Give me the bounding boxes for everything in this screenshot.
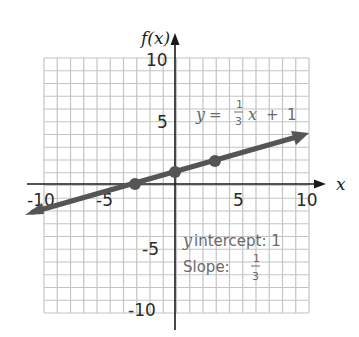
svg-text:y: y bbox=[182, 231, 193, 250]
svg-text:y: y bbox=[195, 105, 206, 124]
svg-text:intercept: 1: intercept: 1 bbox=[194, 232, 281, 250]
svg-text:1: 1 bbox=[253, 252, 260, 265]
data-point bbox=[129, 178, 141, 190]
svg-text:x: x bbox=[248, 105, 257, 124]
svg-text:=: = bbox=[209, 106, 222, 124]
svg-text:1: 1 bbox=[287, 106, 297, 124]
y-axis-arrow-icon bbox=[171, 33, 180, 45]
y-tick-label: 5 bbox=[157, 112, 168, 132]
chart: x f(x) -10 -5 5 10 10 5 -5 -10 y = 1 3 x… bbox=[0, 0, 359, 337]
x-axis-label: x bbox=[336, 174, 346, 194]
y-tick-label: -10 bbox=[128, 300, 156, 320]
svg-text:1: 1 bbox=[236, 98, 243, 111]
x-tick-label: 10 bbox=[296, 190, 318, 210]
data-point bbox=[209, 155, 221, 167]
svg-text:3: 3 bbox=[252, 270, 259, 283]
data-point bbox=[169, 166, 181, 178]
intercept-label: y intercept: 1 bbox=[182, 231, 281, 250]
x-tick-label: 5 bbox=[233, 190, 244, 210]
y-tick-label: 10 bbox=[146, 50, 168, 70]
y-axis bbox=[171, 33, 180, 330]
svg-text:Slope:: Slope: bbox=[183, 258, 230, 276]
x-axis-arrow-icon bbox=[314, 180, 326, 189]
y-tick-label: -5 bbox=[142, 239, 159, 259]
slope-label: Slope: 1 3 bbox=[183, 252, 260, 283]
equation-label: y = 1 3 x + 1 bbox=[195, 98, 297, 128]
y-axis-label: f(x) bbox=[139, 28, 170, 48]
svg-text:+: + bbox=[266, 106, 279, 124]
svg-text:3: 3 bbox=[235, 115, 242, 128]
line-arrow-right-icon bbox=[291, 131, 309, 145]
grid bbox=[44, 58, 309, 313]
